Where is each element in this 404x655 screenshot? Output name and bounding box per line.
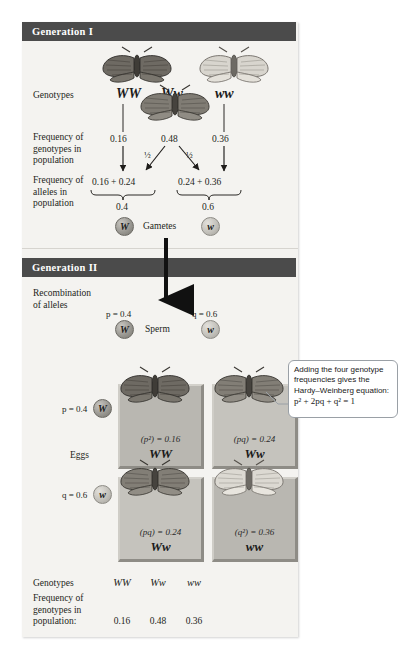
diagram-canvas: Generation I <box>0 0 404 655</box>
hardy-weinberg-callout: Adding the four genotype frequencies giv… <box>288 360 398 418</box>
callout-text: Adding the four genotype frequencies giv… <box>294 365 392 396</box>
callout-leader-line <box>0 0 404 655</box>
callout-equation: p² + 2pq + q² = 1 <box>294 396 392 406</box>
